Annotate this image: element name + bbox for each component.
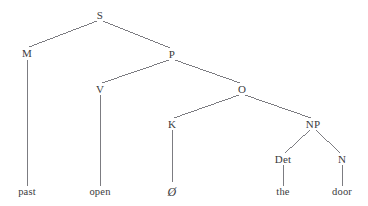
tree-edge-o-to-np (245, 95, 311, 118)
tree-edge-p-to-v (102, 60, 169, 83)
tree-node-p: P (169, 49, 175, 60)
tree-node-det: Det (275, 154, 291, 165)
tree-node-s: S (97, 10, 103, 21)
tree-edge-s-to-p (103, 21, 170, 48)
tree-node-n: N (338, 154, 346, 165)
tree-node-m: M (22, 48, 32, 59)
tree-terminal-t4: the (276, 187, 289, 198)
tree-node-np: NP (306, 119, 320, 130)
tree-edge-group (27, 21, 342, 186)
tree-terminal-t3: Ø (168, 186, 177, 198)
tree-edge-p-to-o (175, 60, 240, 83)
tree-edge-np-to-n (316, 130, 340, 153)
tree-edge-np-to-det (285, 130, 310, 153)
tree-node-k: K (168, 119, 176, 130)
tree-edge-s-to-m (29, 21, 97, 47)
tree-node-o: O (238, 84, 246, 95)
tree-edges-layer (0, 0, 368, 206)
tree-edge-o-to-k (174, 95, 239, 118)
tree-terminal-t2: open (89, 187, 110, 198)
tree-terminal-t5: door (332, 187, 352, 198)
syntax-tree-figure: SMPVOKNPDetNpastopenØthedoor (0, 0, 368, 206)
tree-node-v: V (96, 84, 104, 95)
tree-terminal-t1: past (18, 187, 36, 198)
